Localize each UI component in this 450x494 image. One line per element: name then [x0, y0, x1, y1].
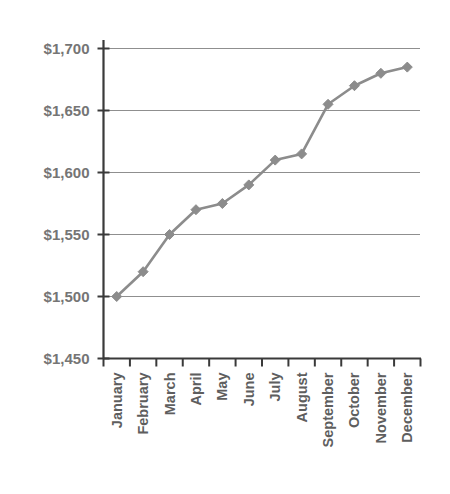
x-axis-tick-label: April [188, 373, 204, 406]
x-axis-tick-label: December [399, 372, 415, 442]
y-axis-tick-label: $1,450 [44, 350, 90, 367]
y-axis-tick-label: $1,500 [44, 288, 90, 305]
x-axis-tick-label: January [109, 373, 125, 429]
x-axis-tick-label: September [320, 372, 336, 447]
y-axis-tick-label: $1,600 [44, 164, 90, 181]
x-axis-tick-label: October [346, 372, 362, 428]
x-axis-tick-label: March [162, 373, 178, 416]
x-axis-tick-label: July [267, 373, 283, 402]
x-axis-tick-label: May [214, 373, 230, 401]
y-axis-tick-label: $1,700 [44, 40, 90, 57]
x-axis-tick-label: November [373, 372, 389, 443]
chart-canvas: $1,450$1,500$1,550$1,600$1,650$1,700 Jan… [0, 0, 450, 494]
x-axis-tick-label: August [294, 372, 310, 422]
x-axis-tick-label: February [135, 373, 151, 435]
line-chart: $1,450$1,500$1,550$1,600$1,650$1,700 Jan… [0, 0, 450, 494]
x-axis-tick-label: June [241, 373, 257, 407]
y-axis-tick-label: $1,650 [44, 102, 90, 119]
y-axis-tick-label: $1,550 [44, 226, 90, 243]
